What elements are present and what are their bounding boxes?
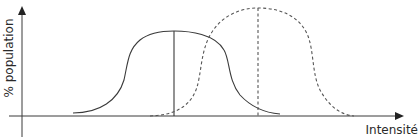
distribution-diagram: % population Intensité bbox=[0, 0, 420, 139]
dashed-distribution-curve bbox=[150, 8, 354, 116]
y-axis-arrow-icon bbox=[18, 6, 26, 15]
y-axis-label: % population bbox=[2, 18, 16, 97]
x-axis-label: Intensité bbox=[365, 123, 418, 137]
solid-distribution-curve bbox=[73, 31, 280, 114]
x-axis-arrow-icon bbox=[395, 112, 404, 120]
